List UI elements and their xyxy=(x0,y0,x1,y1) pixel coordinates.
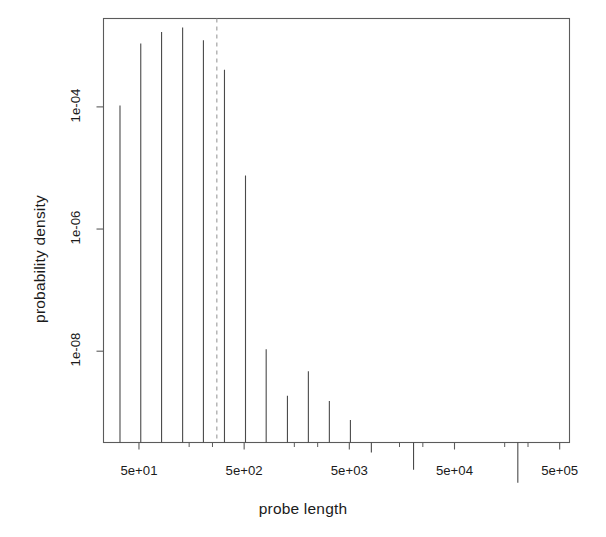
y-axis-ticks xyxy=(97,107,104,351)
x-tick-label: 5e+03 xyxy=(309,463,389,478)
y-axis-title: probability density xyxy=(31,129,49,389)
plot-canvas xyxy=(0,0,606,537)
y-tick-label: 1e-04 xyxy=(67,75,82,135)
x-axis-ticks xyxy=(139,443,560,450)
x-axis-title: probe length xyxy=(0,500,606,518)
x-tick-label: 5e+05 xyxy=(520,463,600,478)
chart-figure: 1e-04 1e-06 1e-08 5e+01 5e+02 5e+03 5e+0… xyxy=(0,0,606,537)
data-stems xyxy=(120,27,518,482)
x-tick-label: 5e+01 xyxy=(99,463,179,478)
x-tick-label: 5e+04 xyxy=(414,463,494,478)
y-tick-label: 1e-06 xyxy=(67,198,82,258)
plot-frame xyxy=(104,19,570,443)
y-tick-label: 1e-08 xyxy=(67,320,82,380)
x-tick-label: 5e+02 xyxy=(204,463,284,478)
